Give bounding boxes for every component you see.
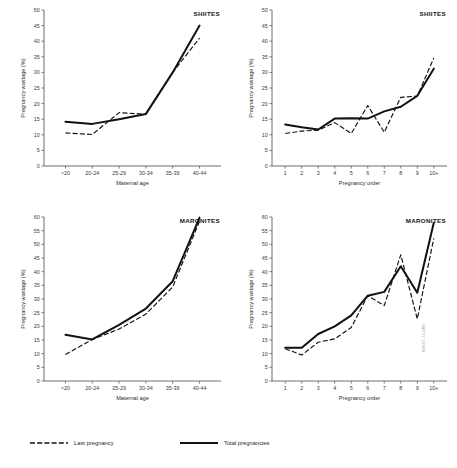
y-tick-label: 15 [34, 116, 40, 122]
x-tick-label: 10+ [429, 170, 438, 176]
figure-pregnancy-wastage: 05101520253035404550<2020-2425-2930-3435… [0, 0, 457, 468]
chart-maronites-pregnancy-order: 05101520253035404550556012345678910+Preg… [228, 205, 457, 417]
legend-label-total-pregnancies: Total pregnancies [224, 440, 269, 446]
x-tick-label: 40-44 [193, 170, 207, 176]
chart-panel-shiites-pregnancy-order: 0510152025303540455012345678910+Pregnanc… [228, 0, 457, 200]
y-tick-label: 50 [262, 241, 268, 247]
y-tick-label: 40 [34, 38, 40, 44]
y-tick-label: 45 [34, 255, 40, 261]
x-tick-label: 10+ [429, 385, 438, 391]
x-axis-title: Pregnancy order [339, 395, 380, 401]
y-tick-label: 40 [262, 269, 268, 275]
y-tick-label: 50 [34, 7, 40, 13]
y-axis-title: Pregnancy wastage (%) [20, 58, 26, 118]
y-tick-label: 50 [262, 7, 268, 13]
y-tick-label: 40 [262, 38, 268, 44]
y-axis-title: Pregnancy wastage (%) [20, 269, 26, 329]
x-tick-label: 8 [399, 170, 402, 176]
figure-credit: 88937-74.4R5 [421, 324, 426, 352]
y-tick-label: 25 [34, 85, 40, 91]
legend-swatch-solid-icon [180, 439, 218, 447]
x-tick-label: <20 [61, 385, 70, 391]
x-tick-label: 25-29 [112, 170, 126, 176]
y-tick-label: 55 [262, 228, 268, 234]
y-tick-label: 5 [37, 364, 40, 370]
y-tick-label: 20 [262, 323, 268, 329]
y-tick-label: 25 [262, 85, 268, 91]
y-tick-label: 30 [34, 296, 40, 302]
y-tick-label: 0 [37, 163, 40, 169]
y-axis-title: Pregnancy wastage (%) [248, 269, 254, 329]
x-tick-label: 35-39 [166, 170, 180, 176]
y-tick-label: 10 [34, 132, 40, 138]
y-tick-label: 15 [262, 116, 268, 122]
y-tick-label: 30 [34, 69, 40, 75]
x-tick-label: 35-39 [166, 385, 180, 391]
chart-panel-maronites-maternal-age: 051015202530354045505560<2020-2425-2930-… [0, 205, 229, 417]
y-tick-label: 45 [262, 23, 268, 29]
y-tick-label: 5 [37, 147, 40, 153]
legend-swatch-dashed-icon [30, 439, 68, 447]
x-tick-label: 4 [333, 385, 336, 391]
y-tick-label: 10 [262, 132, 268, 138]
figure-legend: Last pregnancy Total pregnancies [0, 437, 457, 459]
x-tick-label: 7 [383, 170, 386, 176]
y-tick-label: 25 [34, 310, 40, 316]
y-tick-label: 5 [265, 147, 268, 153]
x-tick-label: 30-34 [139, 385, 153, 391]
y-tick-label: 30 [262, 296, 268, 302]
series-line-dashed [65, 38, 199, 134]
x-axis-title: Maternal age [116, 180, 149, 186]
legend-entry-last-pregnancy: Last pregnancy [30, 439, 114, 447]
legend-entry-total-pregnancies: Total pregnancies [180, 439, 269, 447]
chart-panel-maronites-pregnancy-order: 05101520253035404550556012345678910+Preg… [228, 205, 457, 417]
y-tick-label: 35 [34, 282, 40, 288]
y-tick-label: 35 [262, 54, 268, 60]
chart-panel-shiites-maternal-age: 05101520253035404550<2020-2425-2930-3435… [0, 0, 229, 200]
x-tick-label: 9 [416, 170, 419, 176]
legend-label-last-pregnancy: Last pregnancy [74, 440, 114, 446]
y-tick-label: 55 [34, 228, 40, 234]
x-tick-label: 5 [350, 170, 353, 176]
x-axis-title: Maternal age [116, 395, 149, 401]
y-tick-label: 20 [34, 323, 40, 329]
x-tick-label: 1 [284, 385, 287, 391]
x-tick-label: 20-24 [85, 385, 99, 391]
x-tick-label: 5 [350, 385, 353, 391]
chart-title: MARONITES [406, 217, 446, 224]
y-tick-label: 45 [262, 255, 268, 261]
x-tick-label: 3 [317, 385, 320, 391]
chart-title: SHIITES [419, 10, 446, 17]
x-tick-label: 2 [300, 170, 303, 176]
y-tick-label: 0 [37, 378, 40, 384]
x-tick-label: <20 [61, 170, 70, 176]
y-tick-label: 20 [34, 101, 40, 107]
x-tick-label: 6 [366, 385, 369, 391]
x-tick-label: 6 [366, 170, 369, 176]
y-tick-label: 60 [34, 214, 40, 220]
y-tick-label: 60 [262, 214, 268, 220]
x-tick-label: 30-34 [139, 170, 153, 176]
y-tick-label: 45 [34, 23, 40, 29]
x-tick-label: 8 [399, 385, 402, 391]
series-line-dashed [65, 221, 199, 354]
x-tick-label: 9 [416, 385, 419, 391]
series-line-dashed [285, 238, 434, 355]
y-tick-label: 0 [265, 378, 268, 384]
y-tick-label: 15 [262, 337, 268, 343]
x-axis-title: Pregnancy order [339, 180, 380, 186]
y-axis-title: Pregnancy wastage (%) [248, 58, 254, 118]
y-tick-label: 5 [265, 364, 268, 370]
y-tick-label: 50 [34, 241, 40, 247]
y-tick-label: 10 [262, 351, 268, 357]
x-tick-label: 25-29 [112, 385, 126, 391]
y-tick-label: 0 [265, 163, 268, 169]
series-line-solid [285, 223, 434, 348]
x-tick-label: 7 [383, 385, 386, 391]
y-tick-label: 40 [34, 269, 40, 275]
y-tick-label: 35 [262, 282, 268, 288]
x-tick-label: 3 [317, 170, 320, 176]
chart-shiites-pregnancy-order: 0510152025303540455012345678910+Pregnanc… [228, 0, 457, 200]
series-line-solid [65, 26, 199, 124]
y-tick-label: 10 [34, 351, 40, 357]
